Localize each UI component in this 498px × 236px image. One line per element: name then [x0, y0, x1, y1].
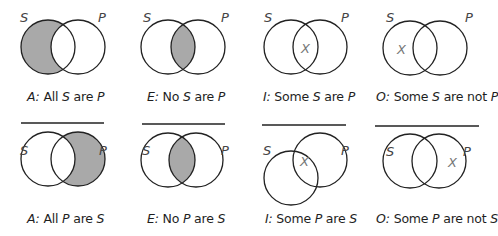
- caption-word: All: [43, 211, 58, 226]
- caption-term: P: [432, 211, 439, 226]
- circle-p: [413, 21, 467, 75]
- label-p: P: [98, 10, 106, 25]
- caption-e-no-s-are-p: E: No S are P: [147, 89, 225, 104]
- caption-word: are: [194, 89, 214, 104]
- caption-word: Some: [276, 211, 311, 226]
- label-s: S: [386, 144, 394, 159]
- diagram-i-some-s-are-p: X S P: [264, 10, 349, 74]
- label-s: S: [264, 10, 272, 25]
- diagram-e-no-p-are-s: S P: [141, 133, 229, 187]
- caption-term: S: [432, 89, 440, 104]
- x-mark-s-only: X: [396, 42, 407, 57]
- caption-prefix: O:: [376, 211, 390, 226]
- label-p: P: [221, 10, 229, 25]
- caption-prefix: I:: [265, 211, 273, 226]
- caption-word: No: [163, 89, 180, 104]
- caption-term: P: [315, 211, 322, 226]
- label-s: S: [386, 10, 394, 25]
- x-mark-intersection: X: [299, 154, 310, 169]
- caption-prefix: A:: [27, 89, 40, 104]
- label-s: S: [20, 10, 28, 25]
- caption-a-all-s-are-p: A: All S are P: [27, 89, 104, 104]
- diagram-e-no-s-are-p: S P: [141, 10, 229, 74]
- caption-word: are: [74, 89, 94, 104]
- caption-i-some-s-are-p: I: Some S are P: [263, 89, 355, 104]
- caption-o-some-p-are-not-s: O: Some P are not S: [376, 211, 498, 226]
- caption-word: Some: [394, 89, 429, 104]
- caption-a-all-p-are-s: A: All P are S: [27, 211, 104, 226]
- label-s: S: [20, 143, 28, 158]
- caption-e-no-p-are-s: E: No P are S: [147, 211, 225, 226]
- caption-term: S: [349, 211, 357, 226]
- caption-term: P: [183, 211, 190, 226]
- caption-prefix: O:: [376, 89, 390, 104]
- caption-term: S: [97, 211, 105, 226]
- caption-word: are: [194, 211, 214, 226]
- caption-term: S: [313, 89, 321, 104]
- x-mark-p-only: X: [447, 155, 458, 170]
- caption-word: are: [73, 211, 93, 226]
- caption-word: No: [163, 211, 180, 226]
- circle-s: [383, 21, 437, 75]
- label-s: S: [143, 10, 151, 25]
- caption-term: S: [490, 211, 498, 226]
- caption-prefix: E:: [147, 211, 159, 226]
- caption-term: P: [491, 89, 498, 104]
- caption-word: Some: [274, 89, 309, 104]
- circle-p: [412, 134, 466, 188]
- diagram-a-all-s-are-p: S P: [20, 10, 106, 74]
- caption-term: P: [218, 89, 225, 104]
- caption-term: P: [348, 89, 355, 104]
- caption-term: S: [183, 89, 191, 104]
- label-s: S: [142, 143, 150, 158]
- diagram-i-some-p-are-s: X S P: [263, 133, 349, 205]
- label-p: P: [99, 143, 107, 158]
- caption-prefix: A:: [27, 211, 40, 226]
- caption-i-some-p-are-s: I: Some P are S: [265, 211, 357, 226]
- diagram-o-some-p-are-not-s: X S P: [383, 134, 471, 188]
- label-p: P: [341, 10, 349, 25]
- caption-word: Some: [394, 211, 429, 226]
- caption-prefix: E:: [147, 89, 159, 104]
- caption-term: S: [62, 89, 70, 104]
- caption-word: are not: [443, 211, 486, 226]
- label-s: S: [263, 143, 271, 158]
- caption-term: S: [217, 211, 225, 226]
- caption-word: are: [324, 89, 344, 104]
- label-p: P: [341, 143, 349, 158]
- label-p: P: [465, 10, 473, 25]
- label-p: P: [463, 144, 471, 159]
- diagram-o-some-s-are-not-p: X S P: [383, 10, 473, 75]
- diagram-a-all-p-are-s: S P: [20, 132, 107, 186]
- circle-s: [383, 134, 437, 188]
- caption-term: P: [97, 89, 104, 104]
- caption-word: are: [326, 211, 346, 226]
- x-mark-intersection: X: [300, 41, 311, 56]
- caption-o-some-s-are-not-p: O: Some S are not P: [376, 89, 498, 104]
- label-p: P: [221, 143, 229, 158]
- circle-s: [264, 151, 318, 205]
- caption-word: All: [43, 89, 58, 104]
- caption-word: are not: [444, 89, 487, 104]
- caption-term: P: [62, 211, 69, 226]
- caption-prefix: I:: [263, 89, 271, 104]
